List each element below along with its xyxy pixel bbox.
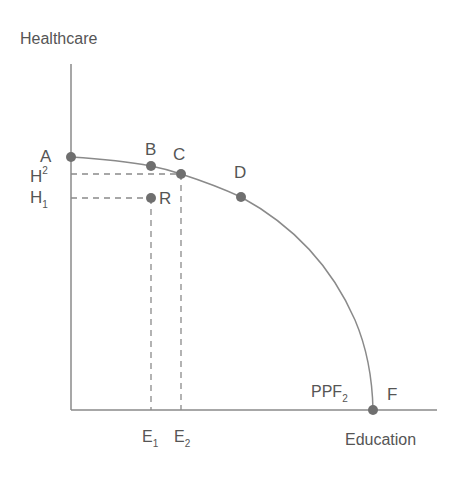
point-r <box>146 193 156 203</box>
label-h2: H2 <box>30 165 48 186</box>
point-b <box>146 161 156 171</box>
label-e2: E2 <box>174 428 191 449</box>
label-f: F <box>387 385 397 404</box>
label-h1: H1 <box>30 188 48 210</box>
dashed-guides <box>71 174 181 410</box>
point-c <box>176 169 186 179</box>
point-f <box>368 405 378 415</box>
ppf-curve <box>71 157 373 410</box>
label-d: D <box>234 163 246 182</box>
label-r: R <box>159 189 171 208</box>
label-c: C <box>173 145 185 164</box>
label-b: B <box>145 140 156 159</box>
y-axis-title: Healthcare <box>20 30 97 47</box>
ppf-chart: Healthcare Education A B C D R F PPF2 H2… <box>0 0 461 478</box>
point-a <box>66 152 76 162</box>
x-axis-title: Education <box>345 431 416 448</box>
label-e1: E1 <box>142 428 159 449</box>
label-a: A <box>40 147 52 166</box>
point-d <box>236 192 246 202</box>
ppf-label: PPF2 <box>311 383 348 404</box>
